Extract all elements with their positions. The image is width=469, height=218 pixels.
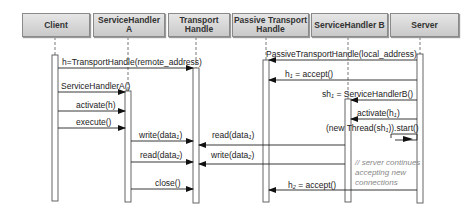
message-label: h=TransportHandle(remote_address) bbox=[62, 57, 202, 67]
message-label: activate(h) bbox=[76, 100, 116, 110]
message-label: activate(h1) bbox=[357, 108, 400, 120]
message-label: PassiveTransportHandle(local_address) bbox=[266, 49, 417, 59]
participant-server: Server bbox=[390, 13, 459, 37]
message-label: h2 = accept() bbox=[288, 180, 336, 192]
message-label: ServiceHandlerA() bbox=[61, 81, 130, 91]
message-label: execute() bbox=[76, 117, 111, 127]
participant-label: Server bbox=[411, 21, 437, 30]
participant-label: ServiceHandler A bbox=[94, 16, 164, 34]
message-label: read(data2) bbox=[140, 150, 182, 162]
participant-label: Client bbox=[44, 21, 68, 30]
message-label: close() bbox=[155, 178, 181, 188]
message-label: write(data2) bbox=[211, 150, 254, 162]
message-label: (new Thread(sh1)).start() bbox=[326, 123, 419, 135]
participant-label: ServiceHandler B bbox=[314, 21, 384, 30]
message-label: sh1 = ServiceHandlerB() bbox=[322, 89, 413, 101]
participant-passive-transport-handle: Passive Transport Handle bbox=[232, 13, 309, 37]
participant-transport-handle: Transport Handle bbox=[168, 13, 230, 37]
participant-service-handler-a: ServiceHandler A bbox=[93, 13, 165, 37]
message-label: read(data1) bbox=[212, 130, 254, 142]
participant-client: Client bbox=[22, 13, 90, 37]
message-label: write(data1) bbox=[139, 130, 182, 142]
server-note: // server continues accepting new connec… bbox=[355, 158, 420, 188]
participant-service-handler-b: ServiceHandler B bbox=[311, 13, 388, 37]
message-label: h1 = accept() bbox=[285, 69, 333, 81]
participant-label: Transport Handle bbox=[169, 16, 229, 34]
participant-label: Passive Transport Handle bbox=[233, 16, 308, 34]
